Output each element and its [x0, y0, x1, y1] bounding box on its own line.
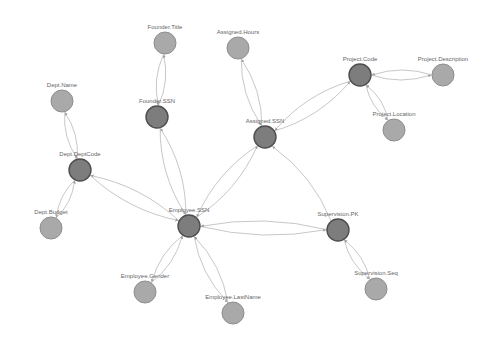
node-label: Project.Code	[343, 56, 378, 62]
key-node-circle[interactable]	[69, 159, 91, 181]
node-dept_name[interactable]: Dept.Name	[47, 82, 78, 112]
node-founder_title[interactable]: Founder.Title	[148, 24, 183, 54]
node-label: Founder.Title	[148, 24, 183, 30]
edge-employee_ssn-to-employee_lastname	[194, 236, 228, 302]
node-employee_gender[interactable]: Employee.Gender	[121, 273, 169, 303]
node-assigned_ssn[interactable]: Assigned.SSN	[246, 118, 285, 148]
node-label: Project.Location	[372, 111, 415, 117]
graph-canvas: Founder.TitleAssigned.HoursProject.CodeP…	[0, 0, 498, 350]
edge-assigned_ssn-to-assigned_hours	[242, 60, 262, 127]
edge-assigned_ssn-to-project_code	[274, 82, 350, 131]
key-node-circle[interactable]	[178, 215, 200, 237]
attribute-node-circle[interactable]	[51, 90, 73, 112]
node-employee_ssn[interactable]: Employee.SSN	[169, 207, 210, 237]
attribute-node-circle[interactable]	[227, 37, 249, 59]
node-label: Supervision.Seq	[354, 270, 398, 276]
edge-founder_ssn-to-employee_ssn	[160, 128, 186, 215]
node-label: Employee.LastName	[205, 294, 261, 300]
node-label: Founder.SSN	[139, 98, 175, 104]
node-label: Employee.SSN	[169, 207, 210, 213]
node-label: Project.Description	[418, 56, 468, 62]
key-node-circle[interactable]	[349, 64, 371, 86]
node-founder_ssn[interactable]: Founder.SSN	[139, 98, 175, 128]
edges-layer	[56, 54, 432, 303]
node-assigned_hours[interactable]: Assigned.Hours	[217, 29, 259, 59]
edge-dept_deptcode-to-employee_ssn	[90, 175, 179, 221]
node-project_description[interactable]: Project.Description	[418, 56, 468, 86]
edge-supervision_pk-to-employee_ssn	[201, 221, 327, 230]
node-dept_budget[interactable]: Dept.Budget	[34, 209, 68, 239]
node-label: Assigned.SSN	[246, 118, 285, 124]
node-label: Dept.Name	[47, 82, 78, 88]
edge-project_description-to-project_code	[372, 70, 432, 75]
node-label: Assigned.Hours	[217, 29, 259, 35]
edge-project_code-to-assigned_ssn	[275, 81, 351, 130]
edge-project_code-to-project_description	[371, 75, 431, 80]
nodes-layer: Founder.TitleAssigned.HoursProject.CodeP…	[34, 24, 468, 324]
key-node-circle[interactable]	[327, 219, 349, 241]
edge-assigned_hours-to-assigned_ssn	[241, 59, 261, 126]
attribute-node-circle[interactable]	[383, 119, 405, 141]
key-node-circle[interactable]	[254, 126, 276, 148]
attribute-node-circle[interactable]	[154, 32, 176, 54]
edge-employee_ssn-to-supervision_pk	[200, 226, 326, 235]
attribute-node-circle[interactable]	[222, 302, 244, 324]
node-label: Supervision.PK	[317, 211, 358, 217]
attribute-node-circle[interactable]	[365, 278, 387, 300]
edge-employee_ssn-to-dept_deptcode	[91, 176, 180, 222]
node-project_location[interactable]: Project.Location	[372, 111, 415, 141]
node-supervision_pk[interactable]: Supervision.PK	[317, 211, 358, 241]
attribute-node-circle[interactable]	[134, 281, 156, 303]
attribute-node-circle[interactable]	[432, 64, 454, 86]
attribute-node-circle[interactable]	[40, 217, 62, 239]
node-label: Dept.Budget	[34, 209, 68, 215]
node-label: Dept.DeptCode	[59, 151, 101, 157]
key-node-circle[interactable]	[146, 106, 168, 128]
node-supervision_seq[interactable]: Supervision.Seq	[354, 270, 398, 300]
node-employee_lastname[interactable]: Employee.LastName	[205, 294, 261, 324]
node-label: Employee.Gender	[121, 273, 169, 279]
edge-employee_ssn-to-founder_ssn	[160, 129, 186, 216]
